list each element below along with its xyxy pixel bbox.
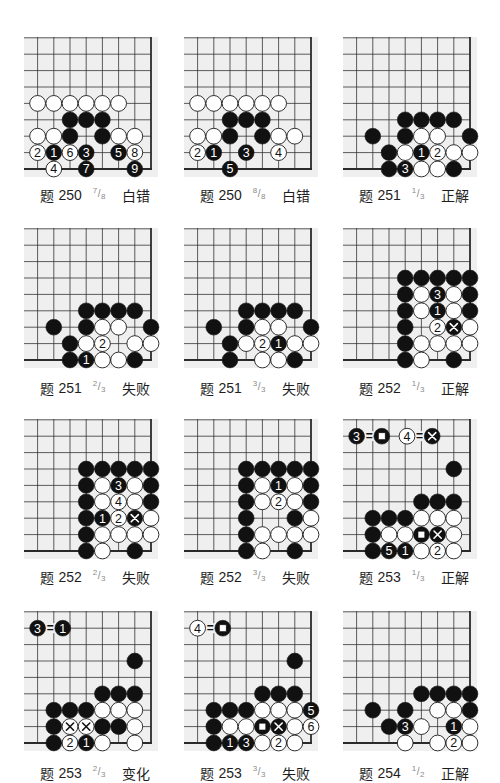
black-stone [78,319,94,335]
black-stone [215,620,231,636]
fraction-denominator: 3 [261,386,265,394]
diagram-fraction: 13 [412,190,425,199]
white-stone [143,527,159,543]
black-stone [78,702,94,718]
go-board: 561324= [184,611,318,751]
black-stone [365,702,381,718]
black-stone [127,510,143,526]
white-stone [462,145,478,161]
move-number: 9 [131,162,138,176]
black-stone: 3 [238,735,254,751]
white-stone [414,352,430,368]
white-stone [255,494,271,510]
black-stone [397,112,413,128]
diagram-fraction: 23 [93,383,106,392]
white-stone [303,510,319,526]
black-stone [222,112,238,128]
black-stone [238,319,254,335]
diagram-caption: 题251 13 正解 [343,186,485,204]
diagram-fraction: 13 [412,383,425,392]
black-stone [381,719,397,735]
result-label: 失败 [282,763,310,783]
black-stone [397,336,413,352]
move-number: 2 [99,337,106,351]
black-stone [365,128,381,144]
white-stone [190,96,206,112]
diagram-caption: 题250 78 白错 [24,186,166,204]
problem-number: 251 [377,187,400,203]
white-stone [46,128,62,144]
black-stone [287,352,303,368]
white-stone [127,735,143,751]
white-stone: 4 [111,494,127,510]
go-diagram-250-8: 21345 [184,37,318,177]
fraction-numerator: 2 [93,569,97,577]
black-stone [303,319,319,335]
white-stone [271,128,287,144]
black-stone [271,719,287,735]
black-stone [95,686,111,702]
move-number: 2 [434,146,441,160]
move-number: 2 [450,736,457,750]
black-stone [206,735,222,751]
move-number: 1 [59,622,66,636]
black-stone: 5 [303,702,319,718]
fraction-denominator: 3 [420,386,424,394]
black-stone: 3 [238,145,254,161]
black-stone [206,319,222,335]
black-stone: 3 [349,428,365,444]
white-stone [414,719,430,735]
move-number: 1 [275,337,282,351]
white-stone [446,527,462,543]
black-stone [271,461,287,477]
white-stone [430,336,446,352]
white-stone [111,96,127,112]
white-stone [127,128,143,144]
black-stone: 1 [206,145,222,161]
move-number: 3 [434,288,441,302]
go-diagram-253-3: 561324= [184,611,318,751]
white-stone [222,719,238,735]
white-stone [414,128,430,144]
white-stone [127,494,143,510]
white-stone [271,319,287,335]
diagram-fraction: 33 [253,572,266,581]
white-stone [127,719,143,735]
diagram-fraction: 12 [412,768,425,777]
go-diagram-252-3: 12 [184,419,318,559]
white-stone [287,128,303,144]
problem-label: 题 [200,567,214,587]
white-stone [303,336,319,352]
black-stone [462,303,478,319]
black-stone [46,319,62,335]
problem-number: 254 [377,765,400,781]
black-stone: 1 [46,145,62,161]
white-stone: 4 [399,428,415,444]
white-stone [127,702,143,718]
go-diagram-252-1: 312 [343,228,477,368]
white-stone [287,702,303,718]
move-number: 8 [131,146,138,160]
white-stone [446,287,462,303]
result-label: 白错 [122,185,150,205]
black-stone [430,527,446,543]
black-stone [255,303,271,319]
black-stone: 3 [78,145,94,161]
result-label: 正解 [441,185,469,205]
black-stone [127,303,143,319]
white-stone: 2 [255,336,271,352]
black-stone [397,352,413,368]
white-stone [255,96,271,112]
white-stone [414,303,430,319]
move-number: 2 [275,736,282,750]
white-stone: 4 [190,620,206,636]
black-stone [78,478,94,494]
white-stone [46,96,62,112]
black-stone: 3 [111,478,127,494]
black-stone [143,319,159,335]
black-stone [62,702,78,718]
go-diagram-252-2: 3412 [24,419,158,559]
black-stone [303,461,319,477]
move-number: 3 [353,430,360,444]
black-stone [46,735,62,751]
